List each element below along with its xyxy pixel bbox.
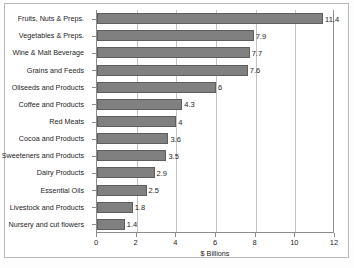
x-axis-tick-label: 12: [330, 238, 338, 247]
bar-value-label: 2.9: [155, 168, 167, 177]
bar[interactable]: [97, 99, 182, 110]
bar-row: 2.9: [97, 167, 333, 178]
bar[interactable]: [97, 202, 133, 213]
bar-value-label: 7.7: [250, 48, 262, 57]
bar-value-label: 4: [176, 117, 182, 126]
x-axis-title: $ Billions: [96, 249, 334, 258]
bar-chart: Fruits, Nuts & Preps.Vegetables & Preps.…: [0, 0, 354, 268]
bar-value-label: 7.6: [248, 66, 260, 75]
bar[interactable]: [97, 13, 323, 24]
x-axis-tick-label: 0: [94, 238, 98, 247]
bar-row: 11.4: [97, 13, 333, 24]
x-axis-tick: [175, 233, 176, 237]
x-axis-tick: [294, 233, 295, 237]
category-label: Vegetables & Preps.: [19, 31, 84, 40]
bar-value-label: 3.5: [166, 151, 178, 160]
bar[interactable]: [97, 116, 176, 127]
category-label: Grains and Feeds: [27, 66, 84, 75]
bar-row: 4: [97, 116, 333, 127]
bar[interactable]: [97, 82, 216, 93]
category-label: Sweeteners and Products: [2, 151, 84, 160]
bar-value-label: 2.5: [147, 186, 159, 195]
category-label: Red Meats: [49, 117, 84, 126]
x-axis-tick: [96, 233, 97, 237]
category-label: Fruits, Nuts & Preps.: [18, 14, 84, 23]
x-axis-tick-label: 6: [213, 238, 217, 247]
bar-value-label: 3.6: [168, 134, 180, 143]
x-axis-tick-label: 8: [253, 238, 257, 247]
x-axis-tick: [334, 233, 335, 237]
category-label: Cocoa and Products: [19, 134, 84, 143]
category-label: Essential Oils: [40, 186, 84, 195]
bar-row: 3.5: [97, 150, 333, 161]
bar-value-label: 4.3: [182, 100, 194, 109]
x-axis-tick-label: 10: [290, 238, 298, 247]
bar-row: 7.9: [97, 30, 333, 41]
bar-row: 1.4: [97, 219, 333, 230]
category-label: Livestock and Products: [10, 203, 84, 212]
bar-row: 7.6: [97, 65, 333, 76]
bar-value-label: 7.9: [254, 31, 266, 40]
category-label: Oilseeds and Products: [12, 83, 84, 92]
bar[interactable]: [97, 133, 168, 144]
bar-row: 7.7: [97, 47, 333, 58]
figure-container: Fruits, Nuts & Preps.Vegetables & Preps.…: [0, 0, 354, 268]
bar[interactable]: [97, 150, 166, 161]
bar[interactable]: [97, 219, 125, 230]
bar-value-label: 6: [216, 83, 222, 92]
bar-value-label: 1.4: [125, 220, 137, 229]
bar-row: 1.8: [97, 202, 333, 213]
bar-row: 2.5: [97, 185, 333, 196]
bar[interactable]: [97, 185, 147, 196]
bar-row: 4.3: [97, 99, 333, 110]
bar-row: 6: [97, 82, 333, 93]
bar[interactable]: [97, 30, 254, 41]
x-axis-tick-label: 4: [173, 238, 177, 247]
bar-value-label: 11.4: [323, 14, 339, 23]
plot-area: 11.47.97.77.664.343.63.52.92.51.81.4: [96, 10, 334, 233]
x-axis-tick: [136, 233, 137, 237]
bar-row: 3.6: [97, 133, 333, 144]
category-label: Nursery and cut flowers: [9, 220, 85, 229]
category-label: Dairy Products: [37, 168, 84, 177]
x-axis-tick: [255, 233, 256, 237]
x-axis-tick: [215, 233, 216, 237]
bar[interactable]: [97, 65, 248, 76]
bar[interactable]: [97, 47, 250, 58]
category-label: Coffee and Products: [19, 100, 84, 109]
bar[interactable]: [97, 167, 155, 178]
category-label: Wine & Malt Beverage: [12, 48, 84, 57]
bar-value-label: 1.8: [133, 203, 145, 212]
x-axis-tick-label: 2: [134, 238, 138, 247]
category-axis: Fruits, Nuts & Preps.Vegetables & Preps.…: [0, 10, 92, 233]
